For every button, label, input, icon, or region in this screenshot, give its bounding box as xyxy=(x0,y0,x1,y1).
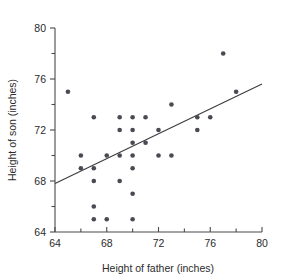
data-point xyxy=(130,128,135,133)
plot-canvas: 6468727680 6468727680 Height of father (… xyxy=(0,0,281,280)
x-axis-tick-labels: 6468727680 xyxy=(49,237,268,249)
y-axis-title: Height of son (inches) xyxy=(6,79,18,181)
data-point xyxy=(195,128,200,133)
data-point xyxy=(117,128,122,133)
x-tick-label: 76 xyxy=(204,237,216,249)
data-point xyxy=(130,140,135,145)
data-point xyxy=(208,115,213,120)
regression-line-group xyxy=(55,84,262,183)
data-point xyxy=(117,179,122,184)
data-point xyxy=(130,115,135,120)
data-point xyxy=(143,115,148,120)
data-point xyxy=(169,102,174,107)
data-point xyxy=(66,89,71,94)
data-point xyxy=(104,153,109,158)
data-point xyxy=(234,89,239,94)
y-tick-label: 76 xyxy=(34,73,46,85)
data-point xyxy=(195,115,200,120)
y-tick-label: 68 xyxy=(34,175,46,187)
y-tick-label: 64 xyxy=(34,226,46,238)
y-axis-tick-labels: 6468727680 xyxy=(34,22,46,238)
data-point xyxy=(130,153,135,158)
data-point xyxy=(92,166,97,171)
data-point xyxy=(156,153,161,158)
data-point xyxy=(79,153,84,158)
data-point xyxy=(156,128,161,133)
x-tick-label: 68 xyxy=(101,237,113,249)
data-point xyxy=(169,153,174,158)
x-tick-label: 72 xyxy=(153,237,165,249)
data-point xyxy=(92,179,97,184)
scatter-plot-figure: 6468727680 6468727680 Height of father (… xyxy=(0,0,281,280)
data-point xyxy=(130,191,135,196)
data-point xyxy=(92,217,97,222)
data-point xyxy=(130,217,135,222)
data-point xyxy=(79,166,84,171)
data-point xyxy=(92,115,97,120)
data-point xyxy=(117,115,122,120)
data-point xyxy=(117,153,122,158)
regression-line xyxy=(55,84,262,183)
y-tick-label: 80 xyxy=(34,22,46,34)
data-point xyxy=(143,140,148,145)
x-axis-title: Height of father (inches) xyxy=(102,262,214,274)
data-point xyxy=(104,217,109,222)
y-tick-label: 72 xyxy=(34,124,46,136)
data-point xyxy=(92,204,97,209)
data-point xyxy=(130,166,135,171)
x-tick-label: 64 xyxy=(49,237,61,249)
data-point xyxy=(221,51,226,56)
x-tick-label: 80 xyxy=(256,237,268,249)
y-axis-ticks xyxy=(50,28,55,232)
x-axis-ticks xyxy=(55,227,262,232)
